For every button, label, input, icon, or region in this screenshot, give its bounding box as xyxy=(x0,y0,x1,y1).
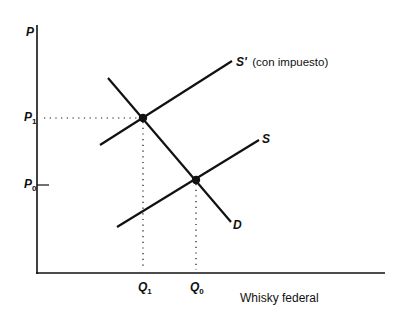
x-axis-label: Whisky federal xyxy=(240,292,319,304)
supply-demand-diagram xyxy=(0,0,409,318)
equilibrium-point-1 xyxy=(139,114,147,122)
demand-label: D xyxy=(233,219,242,231)
p0-main: P xyxy=(24,177,32,191)
supply-curve xyxy=(117,140,259,227)
p0-label: P0 xyxy=(24,178,36,190)
p1-label: P1 xyxy=(24,111,36,123)
q1-label: Q1 xyxy=(138,281,152,293)
p0-sub: 0 xyxy=(32,184,36,193)
q0-sub: 0 xyxy=(199,287,203,296)
supply-label: S xyxy=(262,133,270,145)
q1-sub: 1 xyxy=(147,287,151,296)
supply-tax-curve xyxy=(100,61,232,145)
p1-sub: 1 xyxy=(32,117,36,126)
p1-main: P xyxy=(24,110,32,124)
supply-tax-symbol: S' xyxy=(236,55,247,69)
y-axis-label: P xyxy=(26,26,34,38)
q1-main: Q xyxy=(138,280,147,294)
equilibrium-point-0 xyxy=(192,176,200,184)
supply-tax-note: (con impuesto) xyxy=(252,56,328,68)
q0-label: Q0 xyxy=(190,281,204,293)
supply-tax-label: S' (con impuesto) xyxy=(236,56,328,69)
q0-main: Q xyxy=(190,280,199,294)
